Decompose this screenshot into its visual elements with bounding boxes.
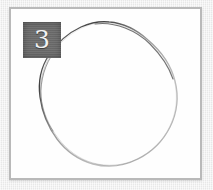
number-badge: 3 [23, 22, 61, 58]
blob-stroke-emphasis-left [41, 52, 54, 131]
badge-number-label: 3 [34, 27, 50, 52]
image-frame: 3 [9, 7, 202, 180]
screenshot-root: 3 [0, 0, 213, 190]
blob-stroke-emphasis [95, 23, 173, 79]
